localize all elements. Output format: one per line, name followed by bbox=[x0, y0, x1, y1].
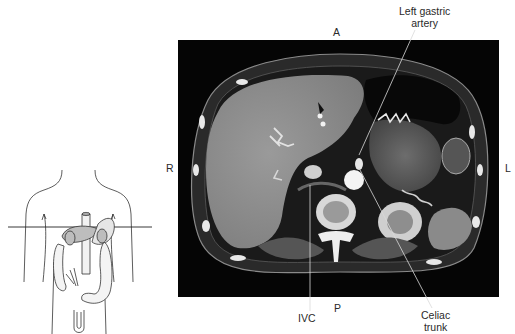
ct-scan-image bbox=[178, 40, 499, 297]
torso-outline-icon bbox=[0, 170, 180, 334]
axial-ct-slice-icon bbox=[178, 40, 499, 297]
right-label: R bbox=[166, 162, 174, 174]
left-gastric-artery-label: Left gastric artery bbox=[399, 5, 450, 29]
locator-diagram bbox=[0, 170, 180, 334]
celiac-trunk-label: Celiac trunk bbox=[421, 309, 450, 333]
left-label: L bbox=[505, 162, 511, 174]
posterior-label: P bbox=[334, 302, 341, 314]
ivc-label: IVC bbox=[298, 312, 316, 324]
anterior-label: A bbox=[333, 26, 340, 38]
